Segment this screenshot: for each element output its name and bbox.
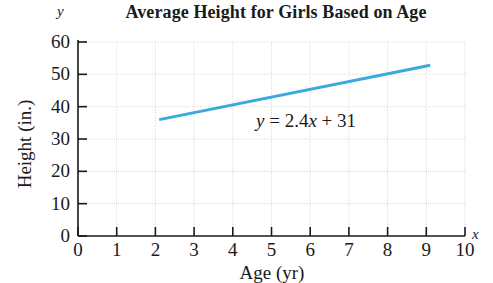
x-tick-label: 0 <box>65 240 91 259</box>
equation-plus: + <box>317 110 337 131</box>
x-tick-label: 5 <box>259 240 285 259</box>
equation-x-var: x <box>308 110 316 131</box>
x-tick-label: 3 <box>181 240 207 259</box>
equation-slope: 2.4 <box>285 110 309 131</box>
x-tick-label: 4 <box>220 240 246 259</box>
x-tick-label: 2 <box>142 240 168 259</box>
x-tick-label: 1 <box>104 240 130 259</box>
equation-annotation: y = 2.4x + 31 <box>256 110 356 132</box>
equation-equals: = <box>264 110 284 131</box>
y-tick-label: 40 <box>36 97 70 116</box>
x-tick-label: 10 <box>452 240 478 259</box>
x-tick-label: 6 <box>297 240 323 259</box>
x-tick-label: 8 <box>375 240 401 259</box>
chart-figure: Average Height for Girls Based on Age y … <box>0 0 493 283</box>
y-tick-label: 20 <box>36 161 70 180</box>
equation-intercept: 31 <box>337 110 356 131</box>
y-tick-label: 10 <box>36 194 70 213</box>
x-tick-label: 9 <box>413 240 439 259</box>
y-tick-label: 30 <box>36 129 70 148</box>
y-tick-label: 60 <box>36 32 70 51</box>
x-tick-label: 7 <box>336 240 362 259</box>
y-tick-label: 50 <box>36 64 70 83</box>
